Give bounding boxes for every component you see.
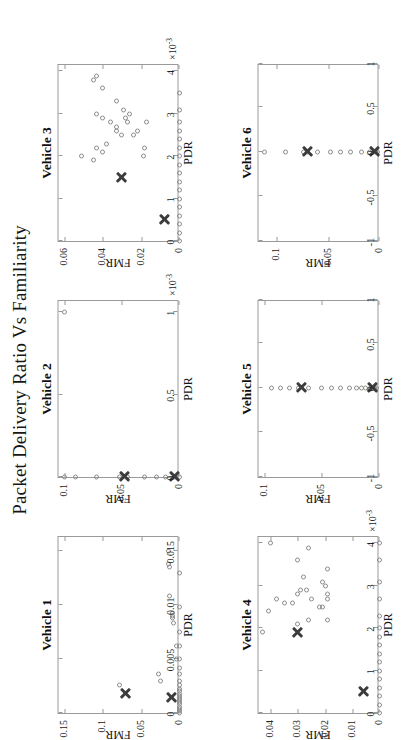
data-point xyxy=(337,386,342,391)
data-point xyxy=(353,386,358,391)
x-tick xyxy=(58,198,62,199)
data-point xyxy=(325,592,330,597)
x-tick-label: 1 xyxy=(364,298,375,303)
data-point xyxy=(319,579,324,584)
y-tick xyxy=(378,237,379,241)
panel-title: Vehicle 3 xyxy=(38,64,54,242)
x-tick xyxy=(58,113,62,114)
data-point xyxy=(306,545,311,550)
x-tick xyxy=(258,542,262,543)
centroid-marker xyxy=(157,213,170,226)
y-tick xyxy=(328,65,329,69)
y-tick xyxy=(102,537,103,541)
y-axis-label: FMR xyxy=(287,255,347,270)
data-point xyxy=(123,116,128,121)
y-tick xyxy=(264,473,265,477)
data-point xyxy=(90,158,95,163)
data-point xyxy=(94,111,99,116)
y-tick-label: 0 xyxy=(173,248,184,253)
y-tick xyxy=(141,537,142,541)
data-point xyxy=(295,558,300,563)
data-point xyxy=(282,150,287,155)
data-point xyxy=(268,386,273,391)
data-point xyxy=(134,128,139,133)
x-tick xyxy=(258,299,262,300)
panel-title: Vehicle 1 xyxy=(38,536,54,714)
x-tick-label: 0 xyxy=(164,476,175,481)
data-point xyxy=(296,386,301,391)
x-axis-exponent: ×10-3 xyxy=(364,510,377,532)
x-tick xyxy=(258,107,262,108)
y-tick xyxy=(325,709,326,713)
y-tick xyxy=(270,709,271,713)
x-tick xyxy=(58,604,62,605)
x-tick-label: 1 xyxy=(164,197,175,202)
x-tick xyxy=(258,196,262,197)
data-point xyxy=(127,111,132,116)
x-tick xyxy=(258,63,262,64)
y-tick-label: 0.04 xyxy=(264,720,275,738)
y-axis-label: FMR xyxy=(87,255,147,270)
y-tick xyxy=(321,473,322,477)
x-tick-label: 3 xyxy=(164,112,175,117)
data-point xyxy=(295,592,300,597)
y-tick xyxy=(64,709,65,713)
data-point xyxy=(281,600,286,605)
y-tick xyxy=(352,537,353,541)
y-tick-label: 0 xyxy=(373,248,384,253)
x-tick xyxy=(58,70,62,71)
data-point xyxy=(100,86,105,91)
y-tick xyxy=(102,65,103,69)
x-tick xyxy=(258,585,262,586)
data-point xyxy=(338,150,343,155)
y-tick-label: 0.1 xyxy=(57,484,68,497)
centroid-marker xyxy=(291,626,304,639)
data-point xyxy=(322,583,327,588)
y-tick xyxy=(121,301,122,305)
y-tick-label: 0 xyxy=(373,720,384,725)
data-point xyxy=(358,150,363,155)
panel-vehicle-5: Vehicle 5-1-0.500.5100.050.1PDRFMR xyxy=(240,300,400,478)
data-point xyxy=(319,386,324,391)
data-point xyxy=(121,107,126,112)
y-tick-label: 0.1 xyxy=(270,248,281,261)
data-point xyxy=(309,596,314,601)
panel-grid: Vehicle 100.0050.010.01500.050.10.15PDRF… xyxy=(40,24,400,714)
figure-canvas: Packet Delivery Ratio Vs Familiarity Veh… xyxy=(0,0,409,740)
data-point xyxy=(347,386,352,391)
x-tick xyxy=(258,240,262,241)
x-tick xyxy=(258,343,262,344)
panel-vehicle-2: Vehicle 200.5100.050.1×10-3PDRFMR xyxy=(40,300,200,478)
data-point xyxy=(116,682,121,687)
plot-area xyxy=(257,536,378,714)
data-point xyxy=(113,99,118,104)
data-point xyxy=(153,475,158,480)
y-tick xyxy=(321,301,322,305)
x-tick xyxy=(58,550,62,551)
x-tick-label: 0 xyxy=(164,712,175,717)
data-point xyxy=(300,575,305,580)
y-tick xyxy=(328,237,329,241)
x-axis-label: PDR xyxy=(380,536,395,714)
y-axis-label: FMR xyxy=(287,727,347,740)
data-point xyxy=(295,622,300,627)
y-tick xyxy=(178,301,179,305)
y-tick xyxy=(141,237,142,241)
y-tick-label: 0 xyxy=(373,484,384,489)
x-tick-label: 4 xyxy=(364,542,375,547)
x-tick xyxy=(258,712,262,713)
y-tick xyxy=(276,237,277,241)
y-tick xyxy=(64,65,65,69)
y-tick xyxy=(102,237,103,241)
y-tick-label: 0.1 xyxy=(257,484,268,497)
plot-area xyxy=(57,64,178,242)
data-point xyxy=(277,386,282,391)
centroid-marker xyxy=(165,691,178,704)
x-tick-label: -1 xyxy=(364,474,375,482)
panel-vehicle-3: Vehicle 30123400.020.040.06×10-3PDRFMR xyxy=(40,64,200,242)
x-axis-label: PDR xyxy=(180,64,195,242)
x-tick-label: 1 xyxy=(164,311,175,316)
x-tick xyxy=(258,627,262,628)
data-point xyxy=(348,150,353,155)
data-point xyxy=(142,145,147,150)
